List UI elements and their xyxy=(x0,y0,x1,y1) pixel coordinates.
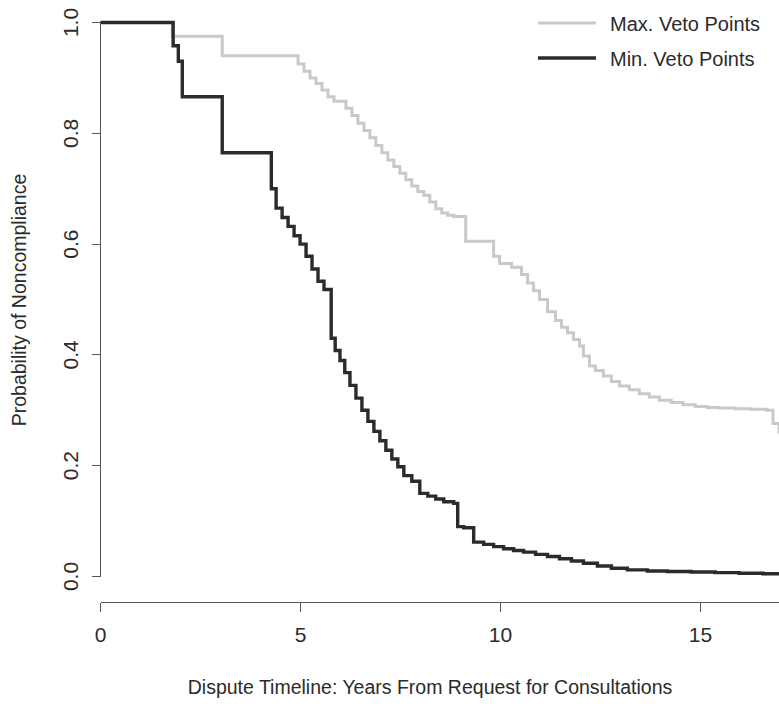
y-tick-label-0.0: 0.0 xyxy=(59,562,82,591)
y-axis-tick-labels: 1.0 0.8 0.6 0.4 0.2 0.0 xyxy=(59,8,82,591)
chart-canvas: 1.0 0.8 0.6 0.4 0.2 0.0 0 5 10 15 Probab… xyxy=(0,0,779,706)
chart-legend: Max. Veto Points Min. Veto Points xyxy=(538,13,760,70)
x-tick-label-10: 10 xyxy=(489,623,512,646)
y-tick-label-0.4: 0.4 xyxy=(59,340,82,370)
x-tick-label-0: 0 xyxy=(95,623,107,646)
x-axis-ticks xyxy=(101,603,701,612)
legend-label-min: Min. Veto Points xyxy=(610,48,755,70)
y-tick-label-0.8: 0.8 xyxy=(59,119,82,148)
x-axis-tick-labels: 0 5 10 15 xyxy=(95,623,713,646)
series-line-min-veto-points xyxy=(101,23,779,574)
y-tick-label-1.0: 1.0 xyxy=(59,8,82,37)
x-tick-label-5: 5 xyxy=(295,623,307,646)
y-tick-label-0.2: 0.2 xyxy=(59,451,82,480)
survival-chart-figure: 1.0 0.8 0.6 0.4 0.2 0.0 0 5 10 15 Probab… xyxy=(0,0,779,706)
legend-label-max: Max. Veto Points xyxy=(610,13,760,35)
x-tick-label-15: 15 xyxy=(689,623,712,646)
x-axis-title: Dispute Timeline: Years From Request for… xyxy=(188,676,673,698)
y-axis-title: Probability of Noncompliance xyxy=(8,174,30,427)
series-line-max-veto-points xyxy=(101,23,779,434)
y-tick-label-0.6: 0.6 xyxy=(59,229,82,258)
y-axis-ticks xyxy=(92,23,101,577)
